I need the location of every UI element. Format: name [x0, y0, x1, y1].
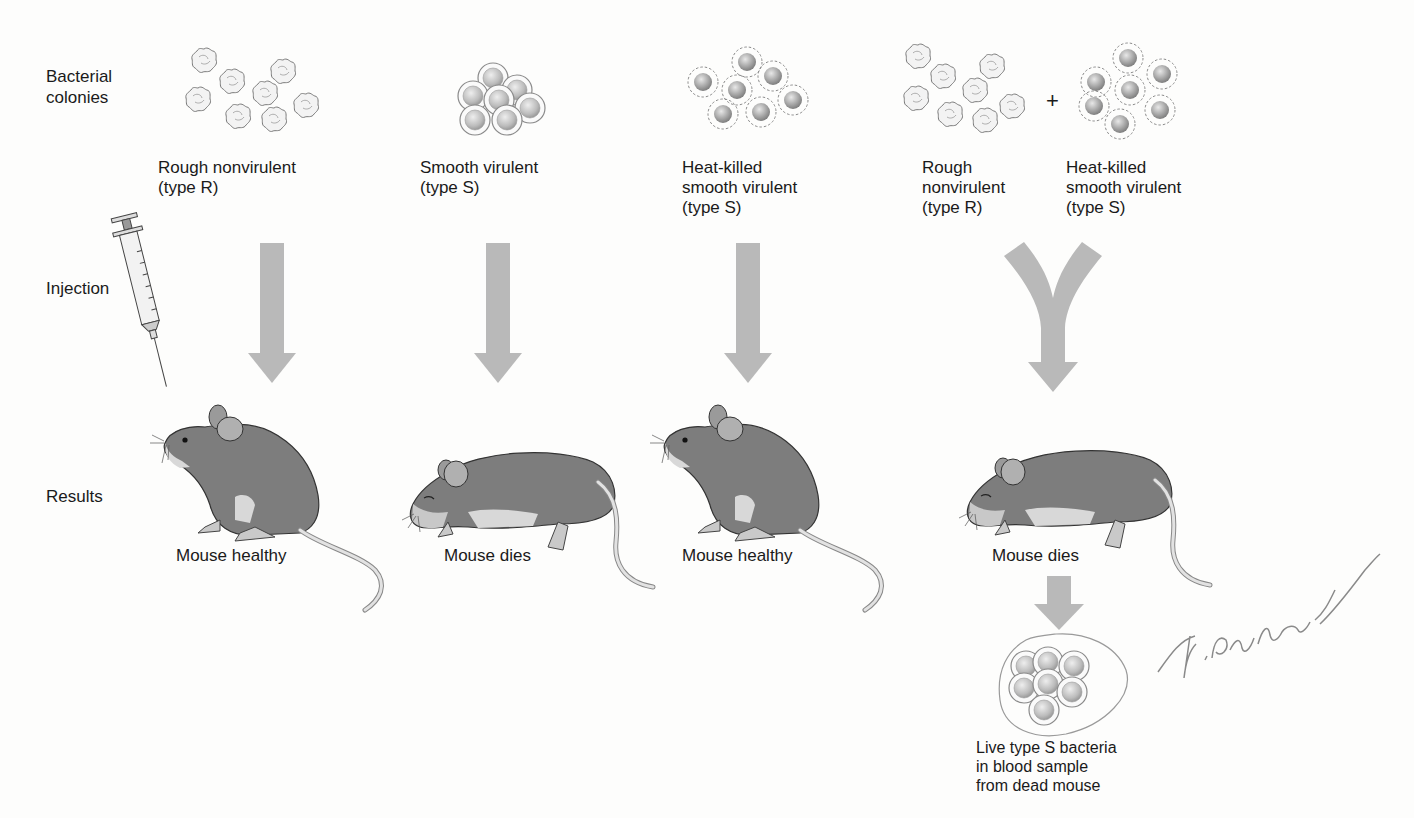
row-label-results: Results [46, 486, 103, 507]
strain-label-rough-mix: Rough nonvirulent (type R) [922, 158, 1005, 218]
merge-arrow [998, 236, 1108, 396]
handwritten-annotation [1150, 540, 1390, 680]
row-label-bacterial-colonies: Bacterial colonies [46, 66, 112, 108]
rough-colonies-icon-mix [900, 46, 1030, 136]
smooth-colonies-icon [455, 60, 555, 140]
syringe-icon [120, 210, 180, 390]
down-arrow-1 [248, 243, 298, 388]
blood-sample-label: Live type S bacteria in blood sample fro… [976, 738, 1117, 795]
heat-killed-colonies-icon [685, 48, 815, 138]
down-arrow-3 [724, 243, 774, 388]
strain-label-rough: Rough nonvirulent (type R) [158, 158, 296, 198]
strain-label-heat-killed-mix: Heat-killed smooth virulent (type S) [1066, 158, 1181, 218]
mouse-dead-1-icon [408, 442, 668, 592]
mouse-healthy-2-icon [660, 405, 900, 595]
blood-sample-drop-icon [996, 630, 1136, 740]
down-arrow-2 [474, 243, 524, 388]
result-label-3: Mouse healthy [682, 546, 793, 566]
strain-label-heat-killed: Heat-killed smooth virulent (type S) [682, 158, 797, 218]
down-arrow-blood [1034, 576, 1084, 636]
result-label-1: Mouse healthy [176, 546, 287, 566]
mouse-healthy-1-icon [160, 405, 400, 595]
row-label-injection: Injection [46, 278, 109, 299]
plus-sign: + [1046, 88, 1059, 114]
heat-killed-colonies-icon-mix [1076, 44, 1186, 144]
result-label-4: Mouse dies [992, 546, 1079, 566]
result-label-2: Mouse dies [444, 546, 531, 566]
strain-label-smooth: Smooth virulent (type S) [420, 158, 538, 198]
rough-colonies-icon [180, 46, 320, 136]
